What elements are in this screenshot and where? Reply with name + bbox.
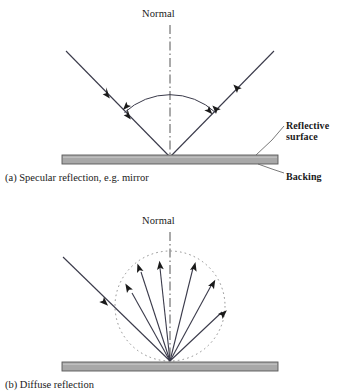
panel-a-group xyxy=(62,25,284,173)
scattered-arrowhead-2 xyxy=(134,262,143,273)
angle-arc-arrowhead-right xyxy=(204,106,214,117)
angle-arc-arrowhead-left xyxy=(121,102,131,113)
scattered-ray-4 xyxy=(170,268,193,361)
reflective-surface-bar-a xyxy=(62,155,278,164)
reflected-ray-a xyxy=(170,51,274,157)
scattered-arrowhead-6 xyxy=(218,308,229,319)
scattered-arrowhead-1 xyxy=(122,282,132,293)
callout-leader-backing xyxy=(258,164,284,173)
scattered-ray-6 xyxy=(170,312,222,361)
reflective-surface-line-2: surface xyxy=(286,131,318,142)
reflective-surface-callout-label: Reflective surface xyxy=(286,120,340,142)
backing-callout-label: Backing xyxy=(286,171,340,182)
reflected-arrowhead-a-1 xyxy=(231,82,242,93)
incident-ray-b xyxy=(63,257,170,361)
scattered-rays-b xyxy=(122,260,229,361)
normal-label-b: Normal xyxy=(142,215,175,227)
incident-ray-a xyxy=(66,51,170,157)
scattered-arrowhead-4 xyxy=(190,261,199,271)
incident-arrowhead-b xyxy=(99,297,110,308)
callout-leader-reflective-surface xyxy=(256,126,284,155)
normal-label-a: Normal xyxy=(142,8,175,20)
panel-b-caption: (b) Diffuse reflection xyxy=(5,379,94,391)
reflective-surface-line-1: Reflective xyxy=(286,120,329,131)
scattered-ray-5 xyxy=(170,284,212,361)
reflective-surface-bar-b xyxy=(62,362,278,371)
panel-b-group xyxy=(62,232,278,371)
panel-a-caption: (a) Specular reflection, e.g. mirror xyxy=(5,172,149,184)
